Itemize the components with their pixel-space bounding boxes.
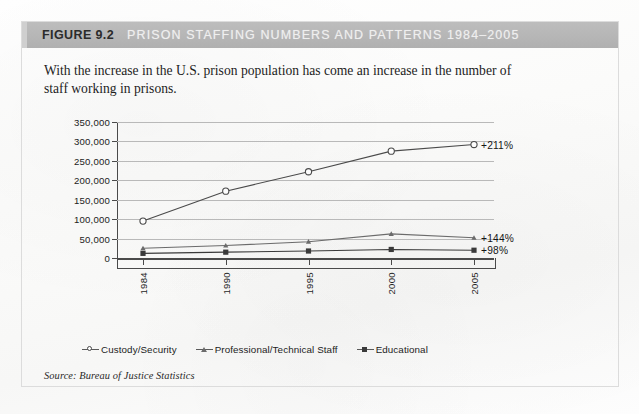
data-point-marker [140,218,146,224]
x-axis-box [117,258,496,269]
data-point-marker [389,247,394,252]
figure-body: With the increase in the U.S. prison pop… [22,48,618,386]
series-annotation: +144% [481,232,514,243]
series-layer [117,122,494,258]
line-chart: 050,000100,000150,000200,000250,000300,0… [44,114,574,324]
data-point-marker [223,188,229,194]
y-tick-label: 250,000 [74,155,110,166]
plot-area: 050,000100,000150,000200,000250,000300,0… [117,122,494,258]
y-tick-label: 50,000 [79,233,110,244]
data-point-marker [388,148,394,154]
source-note: Source: Bureau of Justice Statistics [44,370,195,381]
x-tick-label: 2000 [386,272,397,295]
data-point-marker [305,169,311,175]
figure-title: PRISON STAFFING NUMBERS AND PATTERNS 198… [127,28,519,42]
data-point-marker [471,248,476,253]
triangle-marker-icon [196,344,213,354]
legend-label: Custody/Security [101,344,177,355]
x-tick-mark [474,258,475,265]
legend-label: Professional/Technical Staff [215,344,338,355]
circle-marker-icon [82,344,99,354]
y-tick-label: 0 [104,253,110,264]
x-tick-mark [391,258,392,265]
legend-marker-shape [362,347,367,352]
series-annotation: +98% [481,245,508,256]
y-tick-label: 200,000 [74,175,110,186]
x-tick-label: 1984 [138,272,149,295]
x-tick-label: 2005 [469,272,480,295]
legend-label: Educational [376,344,428,355]
data-point-marker [140,251,145,256]
legend-marker-shape [201,347,207,352]
x-tick-label: 1990 [221,272,232,295]
y-tick-label: 300,000 [74,136,110,147]
legend-item[interactable]: Educational [357,344,428,355]
x-tick-label: 1995 [304,272,315,295]
header-accent-bar [22,22,27,48]
legend-item[interactable]: Professional/Technical Staff [196,344,338,355]
figure-screenshot: FIGURE 9.2 PRISON STAFFING NUMBERS AND P… [0,0,639,414]
legend-marker-shape [87,346,92,351]
x-tick-mark [309,258,310,265]
figure-number: FIGURE 9.2 [42,28,114,42]
legend-item[interactable]: Custody/Security [82,344,177,355]
x-tick-mark [226,258,227,265]
series-line [143,145,474,222]
figure-card: FIGURE 9.2 PRISON STAFFING NUMBERS AND P… [22,22,618,386]
data-point-marker [471,141,477,147]
y-tick-label: 100,000 [74,214,110,225]
figure-header-band: FIGURE 9.2 PRISON STAFFING NUMBERS AND P… [22,22,618,48]
series-annotation: +211% [481,139,513,150]
y-tick-label: 150,000 [74,194,110,205]
data-point-marker [223,250,228,255]
figure-caption: With the increase in the U.S. prison pop… [44,62,514,98]
chart-legend: Custody/SecurityProfessional/Technical S… [82,342,412,356]
data-point-marker [306,248,311,253]
square-marker-icon [357,344,374,354]
y-tick-label: 350,000 [74,117,110,128]
x-tick-mark [143,258,144,265]
